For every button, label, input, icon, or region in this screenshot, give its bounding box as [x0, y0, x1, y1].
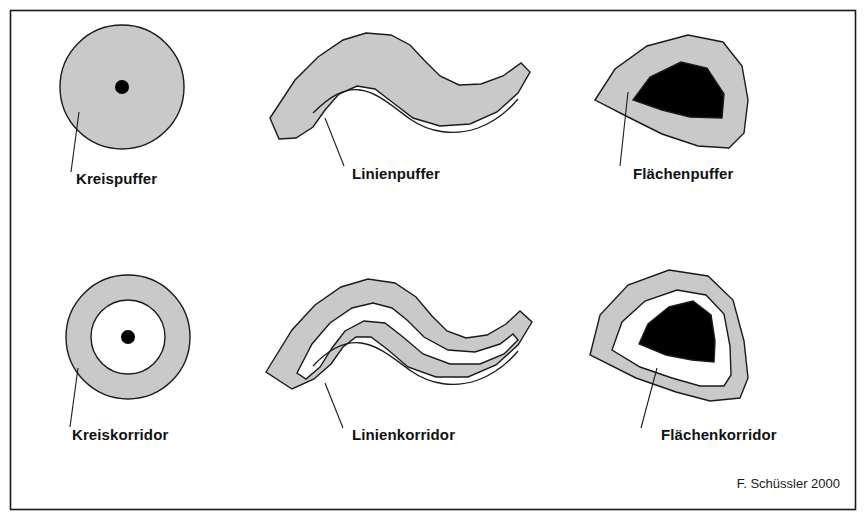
linienkorridor-label: Linienkorridor	[352, 426, 455, 443]
kreispuffer-center-point	[115, 80, 129, 94]
kreiskorridor-label: Kreiskorridor	[72, 426, 168, 443]
buffer-corridor-diagram: Kreispuffer Linienpuffer Flächenpuffer K…	[0, 0, 866, 518]
figure-root: Kreispuffer Linienpuffer Flächenpuffer K…	[0, 0, 866, 518]
linienpuffer-label: Linienpuffer	[352, 165, 440, 182]
credit-label: F. Schüssler 2000	[737, 476, 840, 491]
flaechenpuffer-label: Flächenpuffer	[633, 165, 734, 182]
flaechenkorridor-label: Flächenkorridor	[661, 426, 777, 443]
kreiskorridor-center-point	[121, 330, 135, 344]
kreispuffer-label: Kreispuffer	[76, 170, 157, 187]
